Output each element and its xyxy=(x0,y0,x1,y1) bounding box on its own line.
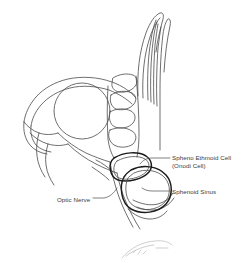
label-spheno-ethmoid-cell-line2: (Onodi Cell) xyxy=(172,162,231,170)
label-spheno-ethmoid-cell-line1: Spheno Ethmoid Cell xyxy=(172,154,231,162)
label-optic-nerve: Optic Nerve xyxy=(57,196,90,204)
figure-background xyxy=(0,0,241,270)
label-spheno-ethmoid-cell: Spheno Ethmoid Cell (Onodi Cell) xyxy=(172,154,231,169)
anatomy-illustration xyxy=(0,0,241,270)
label-sphenoid-sinus: Sphenoid Sinus xyxy=(172,188,216,196)
anatomy-figure: Spheno Ethmoid Cell (Onodi Cell) Sphenoi… xyxy=(0,0,241,270)
